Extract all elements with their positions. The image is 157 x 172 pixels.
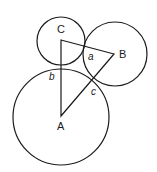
tangent-circles-diagram: C B A a b c — [0, 0, 157, 172]
side-label-c: c — [91, 86, 96, 97]
vertex-label-b: B — [119, 48, 126, 60]
side-label-b: b — [49, 71, 55, 82]
vertex-label-c: C — [57, 23, 65, 35]
vertex-label-a: A — [57, 120, 65, 132]
side-label-a: a — [88, 51, 94, 62]
